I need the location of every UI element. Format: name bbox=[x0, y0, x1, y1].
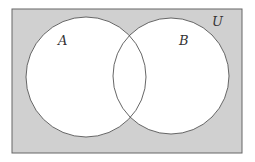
set-a-label: A bbox=[57, 33, 67, 48]
set-b-fill bbox=[113, 18, 229, 134]
set-b-label: B bbox=[178, 33, 189, 48]
venn-diagram: A B U bbox=[0, 0, 255, 162]
universe-label: U bbox=[212, 14, 224, 29]
